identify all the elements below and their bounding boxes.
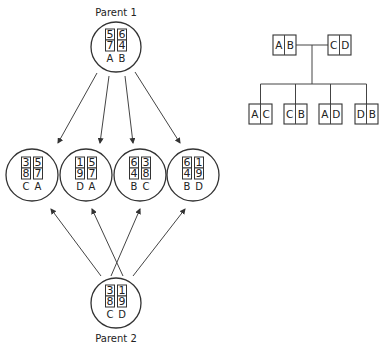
cell-outline <box>91 278 141 328</box>
chromosome-C: 38C <box>142 156 151 192</box>
gene-value: 4 <box>184 167 191 180</box>
chromosome-label: C <box>143 181 150 192</box>
allele-label: C <box>286 108 293 120</box>
parent-title: Parent 2 <box>95 333 137 344</box>
arrow <box>111 209 140 276</box>
chromosome-label: C <box>107 309 114 320</box>
chromosome-D: 19D <box>118 284 127 320</box>
arrow <box>125 76 133 143</box>
gene-value: 8 <box>143 167 150 180</box>
chromosome-label: C <box>23 181 30 192</box>
chromosome-label: D <box>76 181 84 192</box>
parent-1: 57A64BParent 1 <box>91 7 141 72</box>
gene-value: 7 <box>35 167 42 180</box>
chromosome-D: 19D <box>195 156 204 192</box>
arrow <box>51 209 101 276</box>
chromosome-B: 64B <box>118 28 127 64</box>
pedigree-child-2: CB <box>284 104 307 124</box>
chromosome-C: 38C <box>106 284 115 320</box>
gene-value: 4 <box>119 39 126 52</box>
allele-label: A <box>321 108 329 120</box>
chromosome-label: A <box>35 181 42 192</box>
cell-outline <box>114 149 166 201</box>
arrow <box>58 73 97 143</box>
pedigree-child-3: AD <box>319 104 342 124</box>
cell-outline <box>91 22 141 72</box>
allele-label: A <box>251 108 259 120</box>
allele-label: B <box>298 108 305 120</box>
chromosome-label: B <box>131 181 138 192</box>
parent-2: 38C19DParent 2 <box>91 278 141 344</box>
allele-label: B <box>369 108 376 120</box>
chromosome-label: B <box>184 181 191 192</box>
arrow <box>92 209 123 276</box>
chromosome-label: B <box>119 53 126 64</box>
offspring-3: 64B38C <box>114 149 166 201</box>
allele-label: D <box>332 108 340 120</box>
offspring-1: 38C57A <box>6 149 58 201</box>
pedigree-parent-1: AB <box>273 35 296 55</box>
chromosome-B: 64B <box>130 156 139 192</box>
gene-value: 9 <box>196 167 203 180</box>
genetic-cross-diagram: 57A64BParent 138C19DParent 238C57A19D57A… <box>0 0 389 350</box>
arrow <box>100 76 109 143</box>
allele-label: D <box>341 39 349 51</box>
offspring-2: 19D57A <box>60 149 112 201</box>
pedigree-parent-2: CD <box>328 35 351 55</box>
pedigree-child-4: DB <box>355 104 378 124</box>
chromosome-B: 64B <box>183 156 192 192</box>
gene-value: 9 <box>77 167 84 180</box>
cell-outline <box>6 149 58 201</box>
chromosome-A: 57A <box>34 156 43 192</box>
gene-value: 8 <box>23 167 30 180</box>
allele-label: C <box>330 39 337 51</box>
gene-value: 4 <box>131 167 138 180</box>
chromosome-label: A <box>89 181 96 192</box>
chromosome-label: A <box>107 53 114 64</box>
gene-value: 7 <box>89 167 96 180</box>
arrow <box>135 72 180 143</box>
offspring-4: 64B19D <box>167 149 219 201</box>
gene-value: 7 <box>107 39 114 52</box>
gene-value: 8 <box>107 295 114 308</box>
chromosome-A: 57A <box>106 28 115 64</box>
allele-label: A <box>275 39 283 51</box>
gene-value: 9 <box>119 295 126 308</box>
arrow <box>133 209 185 276</box>
allele-label: B <box>287 39 294 51</box>
cell-outline <box>60 149 112 201</box>
pedigree-child-1: AC <box>249 104 272 124</box>
cell-outline <box>167 149 219 201</box>
pedigree-chart: ABCDACCBADDB <box>249 35 378 124</box>
chromosome-C: 38C <box>22 156 31 192</box>
chromosome-label: D <box>118 309 126 320</box>
parent-title: Parent 1 <box>95 7 137 18</box>
chromosome-label: D <box>195 181 203 192</box>
chromosome-D: 19D <box>76 156 85 192</box>
allele-label: D <box>357 108 365 120</box>
allele-label: C <box>263 108 270 120</box>
chromosome-A: 57A <box>88 156 97 192</box>
chromosome-circles: 57A64BParent 138C19DParent 238C57A19D57A… <box>6 7 219 344</box>
